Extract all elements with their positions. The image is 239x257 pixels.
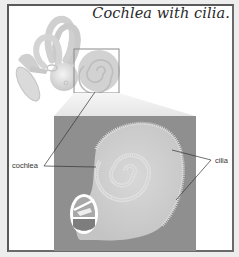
inner-ear-icon xyxy=(12,19,120,104)
zoom-projection xyxy=(54,93,195,116)
figure-title: Cochlea with cilia. xyxy=(92,5,230,21)
cilia-label: cilia xyxy=(215,156,228,165)
cochlea-diagram xyxy=(0,0,239,257)
cochlea-label: cochlea xyxy=(12,161,38,170)
cross-section-inset-icon xyxy=(70,194,98,234)
cochlea-magnified-icon xyxy=(54,116,196,251)
